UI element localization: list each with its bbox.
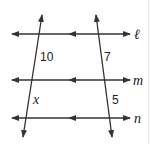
parallel-mark-icon	[68, 77, 76, 83]
parallel-mark-icon	[68, 115, 76, 121]
left-transversal	[23, 15, 42, 137]
label-right-upper: 7	[104, 50, 111, 64]
line-m	[12, 77, 130, 83]
label-line-m: m	[133, 73, 143, 88]
diagram-frame: 10 7 x 5 ℓ m n	[0, 0, 154, 144]
label-line-n: n	[134, 111, 141, 126]
line-n	[12, 115, 130, 121]
label-left-upper: 10	[40, 50, 54, 64]
parallel-mark-icon	[68, 31, 76, 37]
label-left-lower: x	[32, 92, 40, 107]
line-l	[12, 31, 130, 37]
label-line-l: ℓ	[134, 27, 140, 42]
right-transversal	[96, 15, 112, 137]
diagram-canvas: 10 7 x 5 ℓ m n	[0, 0, 154, 144]
label-right-lower: 5	[112, 93, 119, 107]
